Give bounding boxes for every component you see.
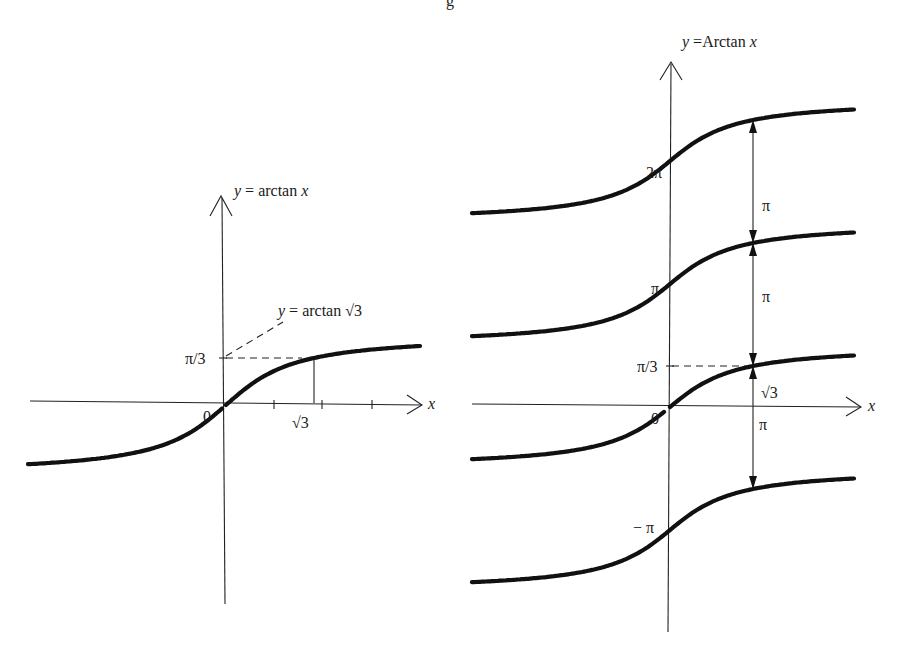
left-origin-label: 0	[203, 408, 211, 425]
right-arctan-branch	[472, 110, 854, 214]
right-label-2pi: 2π	[646, 164, 662, 181]
right-panel: y =Arctan x 2π π π/3 0 − π √3 x π π π	[472, 33, 875, 632]
right-gap-label: π	[759, 416, 767, 433]
left-annotation-leader	[226, 322, 283, 356]
right-x-axis	[472, 404, 861, 407]
right-label-pi-over-3: π/3	[637, 358, 658, 375]
right-arctan-branch	[472, 479, 854, 583]
right-gap-label: π	[762, 288, 770, 305]
left-x-tick-label: √3	[292, 414, 309, 431]
right-label-minus-pi: − π	[633, 519, 654, 536]
left-y-tick-label: π/3	[185, 350, 206, 367]
right-arctan-branch	[472, 356, 854, 460]
right-branches	[472, 110, 854, 583]
left-function-label: y = arctan x	[232, 182, 308, 200]
arctan-figure: g y = arctan x y = arctan √3 π/3 0 √3 x	[0, 0, 907, 661]
right-gap-label: π	[762, 197, 770, 214]
left-annotation-label: y = arctan √3	[276, 302, 362, 320]
left-x-axis-label: x	[427, 395, 435, 412]
right-arctan-branch	[472, 233, 854, 337]
left-panel: y = arctan x y = arctan √3 π/3 0 √3 x	[28, 182, 435, 604]
right-label-pi: π	[651, 280, 659, 297]
right-origin-label: 0	[651, 410, 659, 427]
right-y-axis	[668, 64, 671, 632]
right-x-mark-label: √3	[761, 384, 778, 401]
left-y-axis-arrow-icon	[210, 196, 232, 216]
right-x-axis-label: x	[867, 397, 875, 414]
left-y-axis	[222, 198, 225, 604]
right-function-label: y =Arctan x	[680, 33, 757, 51]
caption-fragment: g	[446, 0, 454, 10]
